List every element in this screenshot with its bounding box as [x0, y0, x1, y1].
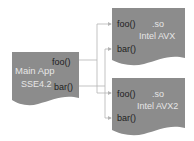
library-avx2-foo: foo() — [117, 89, 136, 99]
library-avx2-bar: bar() — [117, 113, 136, 123]
library-avx2-name: Intel AVX2 — [137, 101, 178, 111]
main-app-title: Main App — [15, 66, 55, 76]
library-avx-ext: .so — [152, 19, 164, 29]
library-avx2-ext: .so — [152, 89, 164, 99]
main-app-subtitle: SSE4.2 — [21, 79, 52, 89]
connector-bar — [79, 49, 111, 118]
library-avx-name: Intel AVX — [139, 31, 175, 41]
library-avx-foo: foo() — [117, 19, 136, 29]
connector-foo — [79, 24, 111, 93]
main-app-bar: bar() — [54, 82, 73, 92]
main-app-foo: foo() — [52, 57, 71, 67]
library-avx-bar: bar() — [117, 44, 136, 54]
